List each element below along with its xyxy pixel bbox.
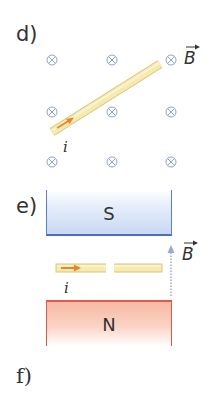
cross-circle-icon [166,107,176,117]
cross-circle-icon [107,55,117,65]
south-pole-magnet: S [46,190,172,236]
north-pole-magnet: N [46,300,172,346]
north-pole-label: N [47,314,171,335]
cross-circle-icon [47,107,57,117]
part-f-label: f) [16,366,32,387]
field-label-b-d: B [184,50,196,67]
cross-circle-icon [47,157,57,167]
part-e-label: e) [16,196,37,217]
cross-circle-icon [107,157,117,167]
cross-circle-icon [166,55,176,65]
field-label-b-e: B [182,246,194,263]
cross-circle-icon [107,107,117,117]
current-label-i-e: i [64,281,69,296]
field-arrow-up-icon [168,245,175,296]
south-pole-label: S [47,203,171,224]
cross-circle-icon [166,157,176,167]
current-label-i-d: i [63,140,68,155]
cross-circle-icon [47,55,57,65]
